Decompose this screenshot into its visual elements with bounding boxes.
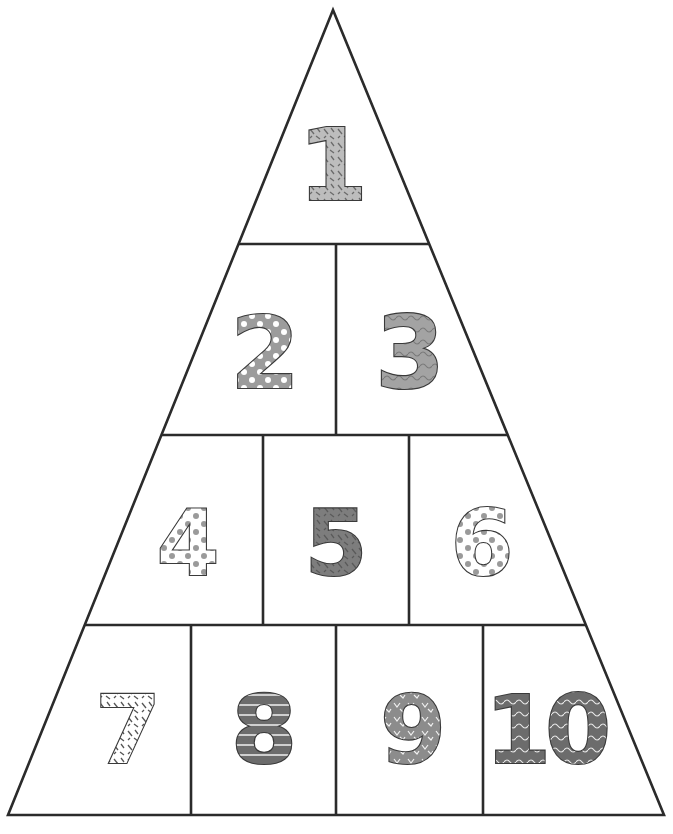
number-4: 4	[157, 491, 220, 596]
number-8: 8	[231, 675, 297, 785]
number-1: 1	[298, 107, 368, 224]
number-3: 3	[375, 295, 445, 412]
pyramid-numbers: 12345678910	[95, 107, 607, 786]
pyramid-svg: 12345678910	[0, 0, 673, 834]
number-5: 5	[305, 491, 368, 596]
number-2: 2	[230, 295, 300, 412]
number-6: 6	[451, 491, 514, 596]
number-7: 7	[95, 675, 161, 785]
number-10: 10	[485, 675, 607, 785]
number-9: 9	[380, 675, 446, 785]
number-pyramid-worksheet: 12345678910	[0, 0, 673, 834]
